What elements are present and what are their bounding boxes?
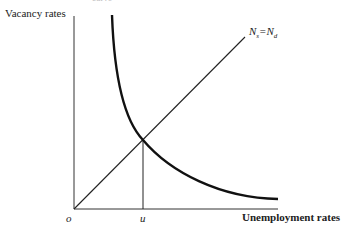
u-label: u bbox=[140, 212, 146, 224]
beveridge-curve bbox=[112, 15, 278, 199]
beveridge-diagram bbox=[0, 0, 342, 233]
y-axis-label: Vacancy rates bbox=[5, 7, 66, 19]
origin-label: o bbox=[66, 212, 72, 224]
equilibrium-line bbox=[74, 37, 245, 209]
x-axis-label: Unemployment rates bbox=[242, 211, 340, 223]
line-label: Ns=Nd bbox=[249, 25, 277, 40]
